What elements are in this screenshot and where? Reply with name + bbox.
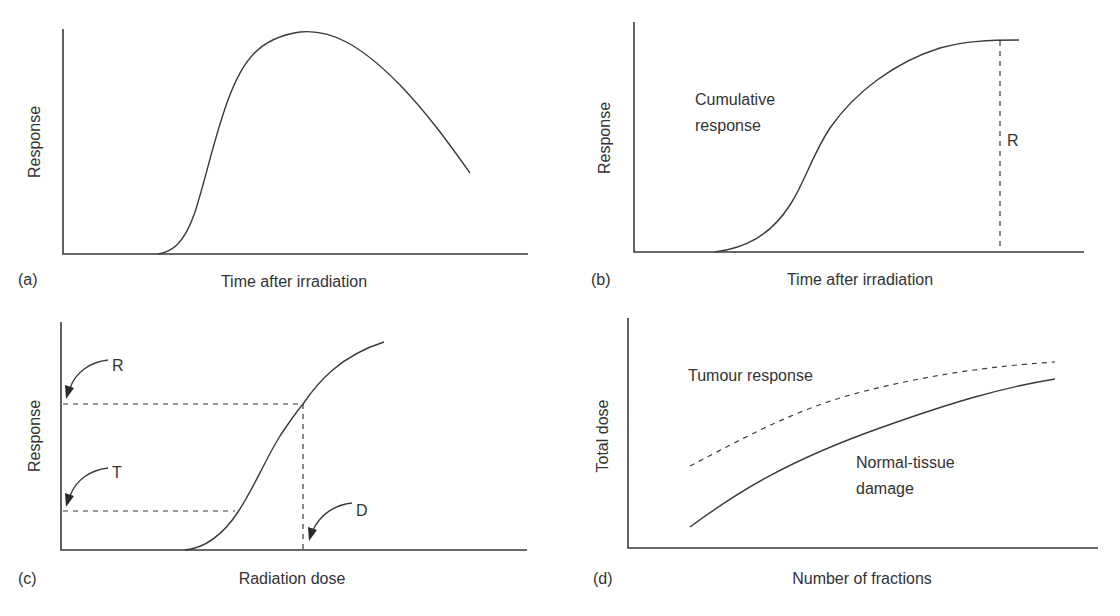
panel-b-annotation-line2: response xyxy=(695,117,761,134)
panel-c-xlabel: Radiation dose xyxy=(239,570,346,587)
panel-b-ylabel: Response xyxy=(596,102,613,174)
panel-c-t-label: T xyxy=(112,464,122,481)
panel-c-t-arrowhead-icon xyxy=(65,493,74,507)
panel-a: Response (a) Time after irradiation xyxy=(18,29,528,290)
figure: Response (a) Time after irradiation R Cu… xyxy=(0,0,1120,616)
panel-d-normal-label-line1: Normal-tissue xyxy=(856,454,955,471)
panel-c-tag: (c) xyxy=(18,570,37,587)
panel-c-r-arrow xyxy=(70,360,108,388)
panel-c-r-arrowhead-icon xyxy=(65,385,74,399)
panel-d-xlabel: Number of fractions xyxy=(792,570,932,587)
panel-c: R T D Response (c) Radiation dose xyxy=(18,322,527,587)
panel-a-xlabel: Time after irradiation xyxy=(221,273,367,290)
panel-c-dose-response-curve xyxy=(185,342,384,550)
panel-d-ylabel: Total dose xyxy=(594,399,611,472)
panel-c-d-arrowhead-icon xyxy=(308,527,317,541)
panel-b-xlabel: Time after irradiation xyxy=(787,271,933,288)
panel-c-r-label: R xyxy=(112,357,124,374)
panel-c-d-arrow xyxy=(313,503,352,530)
panel-c-d-label: D xyxy=(356,502,368,519)
panel-c-ylabel: Response xyxy=(26,400,43,472)
panel-b-cumulative-curve xyxy=(715,40,1019,252)
panel-b-annotation-line1: Cumulative xyxy=(695,91,775,108)
panel-a-axes xyxy=(63,29,528,254)
panel-d-tumour-label: Tumour response xyxy=(688,367,813,384)
panel-b-r-label: R xyxy=(1007,132,1019,149)
panel-a-response-curve xyxy=(158,32,470,254)
panel-d-tag: (d) xyxy=(593,570,613,587)
panel-a-tag: (a) xyxy=(18,271,38,288)
panel-d-normal-tissue-curve xyxy=(690,379,1055,527)
panel-d-axes xyxy=(628,318,1098,548)
panel-b-tag: (b) xyxy=(591,271,611,288)
panel-d-normal-label-line2: damage xyxy=(856,480,914,497)
panel-a-ylabel: Response xyxy=(26,106,43,178)
panel-b: R Cumulative response Response (b) Time … xyxy=(591,22,1084,288)
panel-d: Tumour response Normal-tissue damage Tot… xyxy=(593,318,1098,587)
panel-c-axes xyxy=(61,322,527,550)
panel-c-t-arrow xyxy=(70,468,108,496)
